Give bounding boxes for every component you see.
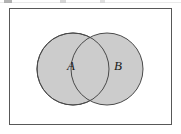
set-circle-b [71,33,143,105]
set-label-b: B [114,58,122,73]
set-label-a: A [66,58,75,73]
venn-diagram-figure: A B [0,0,181,134]
venn-diagram-canvas: A B [0,0,181,134]
